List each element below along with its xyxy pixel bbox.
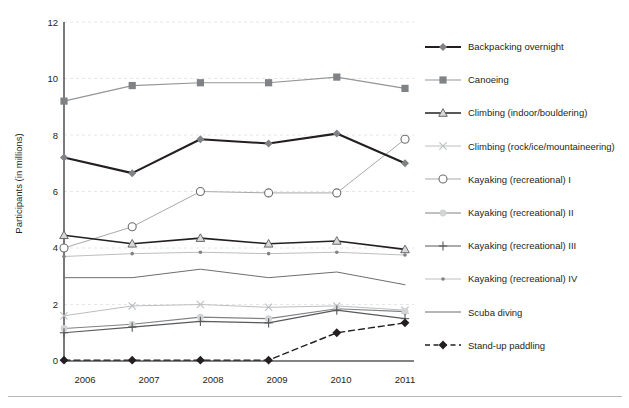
data-point [403, 253, 407, 257]
data-point [60, 98, 67, 105]
series-line [64, 269, 405, 285]
data-point [333, 306, 341, 315]
data-point [128, 223, 136, 231]
legend-label: Climbing (rock/ice/mountaineering) [468, 141, 615, 152]
data-point [62, 255, 66, 259]
series-line [64, 310, 405, 333]
data-point [130, 252, 134, 256]
data-point [439, 241, 447, 250]
data-point [267, 252, 271, 256]
chart-container: Participants (in millions) 12 10 8 6 4 2… [0, 0, 629, 408]
legend-label: Kayaking (recreational) I [468, 174, 571, 185]
legend-item-kayaking-recreational-iii[interactable]: Kayaking (recreational) III [424, 229, 624, 262]
legend-item-climbing-rock-ice-mountaineering[interactable]: Climbing (rock/ice/mountaineering) [424, 130, 624, 163]
data-point [265, 189, 273, 197]
legend-item-climbing-indoor-bouldering[interactable]: Climbing (indoor/bouldering) [424, 96, 624, 129]
data-point [265, 79, 272, 86]
legend-label: Kayaking (recreational) IV [468, 273, 577, 284]
data-point [60, 244, 68, 252]
data-point [440, 209, 447, 216]
legend-swatch-triangle-icon [424, 106, 462, 120]
data-point [60, 154, 68, 162]
series-line [64, 235, 405, 249]
series-line [64, 252, 405, 256]
data-point [264, 356, 273, 365]
series-line [64, 139, 405, 248]
legend-item-scuba-diving[interactable]: Scuba diving [424, 296, 624, 329]
data-point [439, 341, 448, 350]
data-point [128, 169, 136, 177]
legend-swatch-circle-filled-icon [424, 206, 462, 220]
legend-item-kayaking-recreational-i[interactable]: Kayaking (recreational) I [424, 163, 624, 196]
data-point [60, 231, 69, 239]
legend-item-stand-up-paddling[interactable]: Stand-up paddling [424, 329, 624, 362]
data-point [439, 43, 447, 51]
data-point [439, 76, 446, 83]
data-point [199, 250, 203, 254]
data-point [335, 250, 339, 254]
legend-swatch-dot-icon [424, 272, 462, 286]
data-point [60, 356, 69, 365]
data-point [129, 82, 136, 89]
legend-item-backpacking-overnight[interactable]: Backpacking overnight [424, 30, 624, 63]
legend-item-kayaking-recreational-ii[interactable]: Kayaking (recreational) II [424, 196, 624, 229]
series-line [64, 134, 405, 174]
legend-label: Kayaking (recreational) II [468, 207, 574, 218]
data-point [333, 189, 341, 197]
data-point [333, 130, 341, 138]
legend-label: Backpacking overnight [468, 41, 564, 52]
legend-swatch-diamond-filled-dashed-icon [424, 338, 462, 352]
legend-label: Climbing (indoor/bouldering) [468, 107, 587, 118]
bottom-divider [8, 396, 622, 397]
data-point [401, 85, 408, 92]
legend-swatch-line-icon [424, 305, 462, 319]
data-point [401, 159, 409, 167]
legend-label: Scuba diving [468, 307, 522, 318]
series-line [64, 305, 405, 316]
legend-swatch-diamond-icon [424, 40, 462, 54]
data-point [401, 135, 409, 143]
data-point [196, 188, 204, 196]
data-point [265, 139, 273, 147]
data-point [439, 175, 447, 183]
legend-label: Kayaking (recreational) III [468, 240, 576, 251]
data-point [401, 318, 410, 327]
series-line [64, 77, 405, 101]
legend-item-kayaking-recreational-iv[interactable]: Kayaking (recreational) IV [424, 262, 624, 295]
data-point [332, 328, 341, 337]
data-point [128, 356, 137, 365]
legend-label: Stand-up paddling [468, 340, 545, 351]
data-point [333, 73, 340, 80]
legend-swatch-x-icon [424, 139, 462, 153]
data-point [197, 79, 204, 86]
legend-label: Canoeing [468, 74, 509, 85]
legend-swatch-square-icon [424, 73, 462, 87]
legend-swatch-circle-open-icon [424, 172, 462, 186]
data-point [196, 135, 204, 143]
data-point [402, 308, 409, 315]
chart-legend: Backpacking overnight Canoeing Climbing … [424, 30, 624, 362]
legend-item-canoeing[interactable]: Canoeing [424, 63, 624, 96]
data-point [441, 277, 445, 281]
legend-swatch-plus-icon [424, 239, 462, 253]
data-point [196, 356, 205, 365]
